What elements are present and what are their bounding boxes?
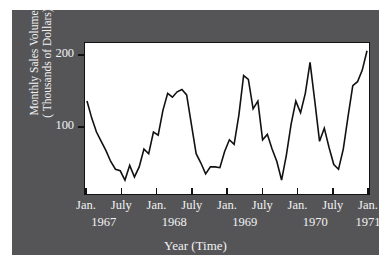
- x-tick-mark: [226, 188, 228, 195]
- x-tick-label-year: 1970: [292, 215, 338, 230]
- plot-area: [84, 42, 370, 195]
- x-tick-label-month: Jan.: [345, 198, 391, 213]
- x-tick-mark: [367, 188, 369, 195]
- x-axis-tick-group: [84, 195, 370, 196]
- y-tick-label-200: 200: [34, 46, 74, 61]
- x-tick-label-year: 1969: [222, 215, 268, 230]
- x-tick-label-year: 1971: [345, 215, 391, 230]
- x-tick-mark: [156, 188, 158, 195]
- x-tick-label-year: 1968: [151, 215, 197, 230]
- x-tick-label-year: 1967: [81, 215, 127, 230]
- x-tick-mark: [85, 188, 87, 195]
- x-tick-mark: [262, 188, 264, 195]
- x-tick-mark: [332, 188, 334, 195]
- sales-line: [87, 51, 367, 180]
- x-tick-mark: [191, 188, 193, 195]
- data-line-svg: [85, 43, 369, 194]
- x-tick-mark: [121, 188, 123, 195]
- x-axis-title: Year (Time): [12, 238, 379, 254]
- figure-panel: Monthly Sales Volume ( Thousands of Doll…: [12, 10, 379, 255]
- chart-figure: Monthly Sales Volume ( Thousands of Doll…: [0, 0, 391, 264]
- x-tick-mark: [297, 188, 299, 195]
- y-tick-label-100: 100: [34, 118, 74, 133]
